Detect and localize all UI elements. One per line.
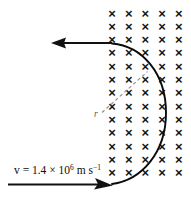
field-cross-r12-c4: × — [175, 165, 183, 180]
field-cross-r12-c3: × — [158, 165, 166, 180]
velocity-label-unit: m s — [74, 164, 94, 176]
velocity-label-unit-exponent: −1 — [93, 163, 101, 172]
velocity-label-prefix: v = 1.4 × 10 — [14, 164, 70, 176]
velocity-label: v = 1.4 × 106 m s−1 — [14, 163, 101, 176]
radius-label: r — [94, 109, 98, 119]
field-cross-r12-c0: × — [108, 165, 116, 180]
magnetic-field-diagram: ××××××××××××××××××××××××××××××××××××××××… — [0, 0, 191, 197]
diagram-canvas: ××××××××××××××××××××××××××××××××××××××××… — [0, 0, 191, 197]
